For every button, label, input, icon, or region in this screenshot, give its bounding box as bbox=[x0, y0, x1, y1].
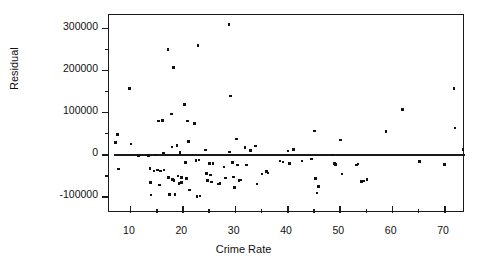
data-point bbox=[188, 189, 191, 192]
data-point bbox=[157, 120, 160, 123]
data-point bbox=[117, 168, 120, 171]
y-axis-tick bbox=[102, 112, 109, 114]
y-axis-tick bbox=[102, 196, 109, 198]
x-axis-minor-tick bbox=[261, 209, 263, 214]
data-point bbox=[301, 160, 304, 163]
plot-area bbox=[108, 14, 464, 212]
x-axis-tick-label: 20 bbox=[175, 224, 187, 236]
y-axis-tick-label: 100000 bbox=[63, 104, 98, 116]
data-point bbox=[163, 169, 166, 172]
data-point bbox=[183, 103, 186, 106]
data-point bbox=[205, 172, 208, 175]
scatter-plot-figure: -100000010000020000030000010203040506070… bbox=[0, 0, 487, 268]
x-axis-tick-label: 60 bbox=[385, 224, 397, 236]
data-point bbox=[385, 130, 388, 133]
y-axis-tick bbox=[102, 28, 109, 30]
x-axis-tick bbox=[339, 206, 341, 213]
y-axis-tick-label: 200000 bbox=[63, 62, 98, 74]
data-point bbox=[229, 95, 232, 98]
data-point bbox=[209, 174, 212, 177]
data-point bbox=[173, 179, 176, 182]
x-axis-minor-tick bbox=[418, 209, 420, 214]
data-point bbox=[167, 176, 170, 179]
data-point bbox=[313, 130, 316, 133]
data-point bbox=[185, 177, 188, 180]
x-axis-tick-label: 50 bbox=[333, 224, 345, 236]
data-point bbox=[206, 179, 209, 182]
y-axis-minor-tick bbox=[105, 133, 110, 135]
data-point bbox=[462, 148, 465, 151]
data-point bbox=[339, 139, 342, 142]
data-point bbox=[334, 163, 337, 166]
x-axis-minor-tick bbox=[366, 209, 368, 214]
data-point bbox=[137, 154, 140, 157]
data-point bbox=[172, 66, 175, 69]
data-point bbox=[366, 178, 369, 181]
x-axis-minor-tick bbox=[156, 209, 158, 214]
data-point bbox=[158, 184, 161, 187]
data-point bbox=[114, 141, 117, 144]
data-point bbox=[159, 170, 162, 173]
data-point bbox=[150, 194, 153, 197]
data-point bbox=[453, 87, 456, 90]
x-axis-tick-label: 30 bbox=[228, 224, 240, 236]
data-point bbox=[231, 161, 234, 164]
data-point bbox=[235, 138, 238, 141]
data-point bbox=[176, 144, 179, 147]
data-point bbox=[167, 48, 170, 51]
y-axis-title: Residual bbox=[8, 47, 20, 90]
data-point bbox=[233, 186, 236, 189]
data-point bbox=[362, 180, 365, 183]
data-point bbox=[162, 152, 165, 155]
data-point bbox=[179, 151, 182, 154]
data-point bbox=[249, 149, 252, 152]
data-point bbox=[454, 127, 457, 130]
data-point bbox=[224, 177, 227, 180]
data-point bbox=[223, 166, 226, 169]
data-point bbox=[128, 87, 131, 90]
data-point bbox=[357, 163, 360, 166]
data-point bbox=[171, 146, 174, 149]
x-axis-title: Crime Rate bbox=[0, 243, 487, 255]
data-point bbox=[193, 122, 196, 125]
x-axis-minor-tick bbox=[313, 209, 315, 214]
data-point bbox=[187, 140, 190, 143]
x-axis-tick bbox=[182, 206, 184, 213]
y-axis-tick-label: 300000 bbox=[63, 20, 98, 32]
data-point bbox=[198, 159, 201, 162]
x-axis-ticks bbox=[109, 213, 465, 214]
x-axis-tick-label: 40 bbox=[280, 224, 292, 236]
data-point bbox=[153, 170, 156, 173]
data-point bbox=[228, 151, 231, 154]
data-point bbox=[130, 143, 133, 146]
data-point bbox=[186, 120, 189, 123]
data-point bbox=[210, 181, 213, 184]
data-point bbox=[443, 163, 446, 166]
x-axis-tick-label: 70 bbox=[437, 224, 449, 236]
x-axis-minor-tick bbox=[208, 209, 210, 214]
data-point bbox=[174, 193, 177, 196]
data-point bbox=[199, 195, 202, 198]
data-point bbox=[316, 192, 319, 195]
x-axis-tick bbox=[444, 206, 446, 213]
data-point bbox=[331, 154, 334, 157]
data-point bbox=[261, 173, 264, 176]
data-point bbox=[341, 173, 344, 176]
x-axis-tick-label: 10 bbox=[123, 224, 135, 236]
y-axis-tick-label: 0 bbox=[92, 146, 98, 158]
data-point bbox=[184, 161, 187, 164]
data-point bbox=[228, 23, 231, 26]
data-point bbox=[197, 44, 200, 47]
x-axis-tick bbox=[130, 206, 132, 213]
data-point bbox=[204, 149, 207, 152]
y-axis-tick bbox=[102, 70, 109, 72]
data-point bbox=[287, 150, 290, 153]
data-point bbox=[288, 162, 291, 165]
x-axis-tick bbox=[392, 206, 394, 213]
data-point bbox=[282, 161, 285, 164]
data-point bbox=[149, 167, 152, 170]
data-point bbox=[236, 164, 239, 167]
data-point bbox=[116, 133, 119, 136]
y-axis-ticks bbox=[109, 15, 110, 213]
x-axis-tick bbox=[235, 206, 237, 213]
